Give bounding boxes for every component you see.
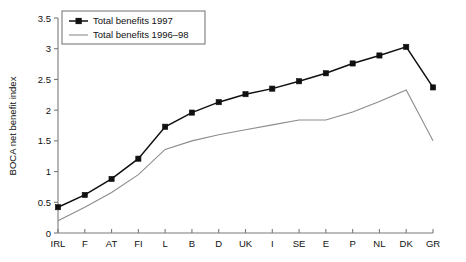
x-tick-label: SE [293, 238, 306, 249]
series-line [58, 47, 433, 207]
chart-legend: Total benefits 1997Total benefits 1996–9… [62, 11, 205, 44]
data-point-marker [82, 192, 87, 197]
x-tick-label: IRL [51, 238, 66, 249]
x-tick-label: P [349, 238, 355, 249]
data-point-marker [377, 53, 382, 58]
x-tick-label: B [189, 238, 195, 249]
x-tick-label: F [82, 238, 88, 249]
data-point-marker [243, 92, 248, 97]
x-tick-label: UK [239, 238, 253, 249]
data-point-marker [216, 100, 221, 105]
x-tick-label: NL [373, 238, 385, 249]
y-axis-title: BOCA net benefit index [7, 76, 18, 175]
x-tick-label: D [215, 238, 222, 249]
data-point-marker [296, 79, 301, 84]
x-tick-label: L [162, 238, 167, 249]
x-tick-label: I [271, 238, 274, 249]
x-axis: IRLFATFILBDUKISEEPNLDKGR [51, 229, 441, 249]
data-point-marker [430, 85, 435, 90]
line-chart: 00.511.522.533.5 IRLFATFILBDUKISEEPNLDKG… [0, 0, 466, 262]
data-point-marker [189, 110, 194, 115]
y-tick-label: 2 [46, 105, 51, 116]
chart-series [55, 44, 435, 220]
legend-label: Total benefits 1997 [93, 15, 173, 26]
y-tick-label: 3 [46, 43, 51, 54]
x-tick-label: DK [400, 238, 414, 249]
x-tick-label: GR [426, 238, 440, 249]
data-point-marker [55, 205, 60, 210]
x-tick-label: E [323, 238, 329, 249]
data-point-marker [163, 124, 168, 129]
data-point-marker [350, 61, 355, 66]
chart-figure: 00.511.522.533.5 IRLFATFILBDUKISEEPNLDKG… [0, 0, 466, 262]
y-axis: 00.511.522.533.5 [38, 13, 58, 239]
legend-swatch-marker [76, 18, 81, 23]
y-tick-label: 3.5 [38, 13, 51, 24]
data-point-marker [404, 44, 409, 49]
y-tick-label: 1.5 [38, 135, 51, 146]
y-tick-label: 0 [46, 228, 51, 239]
data-point-marker [109, 176, 114, 181]
data-point-marker [270, 86, 275, 91]
x-tick-label: FI [134, 238, 142, 249]
y-tick-label: 0.5 [38, 197, 51, 208]
legend-label: Total benefits 1996–98 [93, 29, 189, 40]
data-point-marker [323, 71, 328, 76]
x-tick-label: AT [106, 238, 118, 249]
y-tick-label: 2.5 [38, 74, 51, 85]
data-point-marker [136, 156, 141, 161]
series-line [58, 90, 433, 221]
y-tick-label: 1 [46, 166, 51, 177]
